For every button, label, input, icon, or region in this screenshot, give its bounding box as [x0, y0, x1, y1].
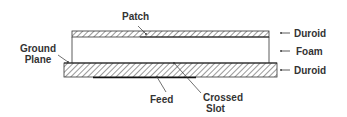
feed-label: Feed [150, 94, 173, 105]
top-duroid-label: Duroid [294, 28, 326, 39]
patch-label: Patch [122, 11, 149, 22]
ground-plane-label: Ground Plane [18, 43, 58, 65]
feed-leader [157, 77, 166, 92]
bottom-duroid-layer [64, 63, 277, 77]
ground-plane-label-line1: Ground [18, 43, 58, 54]
ground-plane-leader [58, 55, 68, 62]
crossed-slot-label-line1: Crossed [203, 92, 243, 103]
ground-plane-label-line2: Plane [18, 54, 58, 65]
bottom-duroid-label: Duroid [294, 65, 326, 76]
top-duroid-layer [72, 31, 269, 37]
crossed-slot-label: Crossed Slot [203, 92, 243, 114]
crossed-slot-label-line2: Slot [203, 103, 243, 114]
foam-label: Foam [296, 46, 323, 57]
